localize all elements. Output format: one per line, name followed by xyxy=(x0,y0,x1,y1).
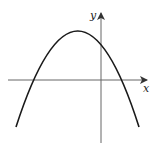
x-axis-label: x xyxy=(143,82,150,95)
y-axis-label: y xyxy=(89,9,97,22)
parabola-graph: y x xyxy=(0,0,152,164)
parabola-curve xyxy=(16,31,139,127)
